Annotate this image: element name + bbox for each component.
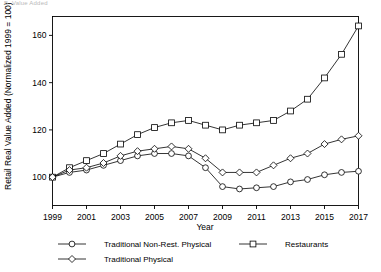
legend-marker-circle	[69, 241, 75, 247]
data-point	[134, 148, 141, 155]
y-axis-title: Retail Real Value Added (Normalized 1999…	[3, 2, 13, 190]
y-axis-ticks: 100120140160	[32, 30, 52, 182]
x-tick-label: 2013	[281, 212, 300, 222]
legend-label: Traditional Physical	[104, 255, 173, 264]
legend-label: Restaurants	[285, 240, 328, 249]
data-point	[288, 179, 294, 185]
data-point	[288, 108, 294, 114]
data-point	[84, 158, 90, 164]
data-point	[169, 151, 175, 157]
y-tick-label: 160	[32, 30, 46, 40]
data-point	[169, 120, 175, 126]
legend-item[interactable]: Restaurants	[239, 240, 328, 249]
x-tick-label: 2017	[349, 212, 368, 222]
y-tick-label: 120	[32, 125, 46, 135]
legend-label: Traditional Non-Rest. Physical	[104, 240, 212, 249]
x-tick-label: 2007	[179, 212, 198, 222]
x-tick-label: 1999	[43, 212, 62, 222]
data-point	[305, 96, 311, 102]
data-point	[356, 168, 362, 174]
data-point	[203, 165, 209, 171]
data-point	[185, 145, 192, 152]
legend-marker-diamond	[69, 256, 76, 263]
x-tick-label: 2015	[315, 212, 334, 222]
panel-title: B. Value Added	[4, 0, 48, 6]
data-point	[321, 141, 328, 148]
data-point	[254, 120, 260, 126]
data-point	[339, 51, 345, 57]
x-tick-label: 2009	[213, 212, 232, 222]
data-point	[339, 170, 345, 176]
legend-marker-square	[250, 241, 256, 247]
x-tick-label: 2005	[145, 212, 164, 222]
data-point	[186, 118, 192, 124]
data-point	[220, 184, 226, 190]
data-point	[220, 127, 226, 133]
data-point	[118, 141, 124, 147]
data-point	[304, 150, 311, 157]
data-point	[322, 172, 328, 178]
data-point	[355, 132, 362, 139]
x-axis-title: Year	[196, 222, 213, 232]
data-point	[151, 145, 158, 152]
data-point	[203, 122, 209, 128]
data-point	[270, 162, 277, 169]
data-point	[271, 118, 277, 124]
chart-legend: Traditional Non-Rest. PhysicalRestaurant…	[58, 240, 328, 264]
series-layer	[49, 23, 362, 192]
x-axis-ticks: 1999200120032005200720092011201320152017	[43, 206, 368, 222]
data-point	[186, 153, 192, 159]
x-tick-label: 2001	[77, 212, 96, 222]
data-point	[287, 155, 294, 162]
y-tick-label: 100	[32, 172, 46, 182]
value-added-line-chart: Retail Real Value Added (Normalized 1999…	[0, 0, 381, 272]
data-point	[152, 125, 158, 131]
data-point	[338, 136, 345, 143]
y-tick-label: 140	[32, 78, 46, 88]
data-point	[168, 143, 175, 150]
data-point	[305, 177, 311, 183]
data-point	[322, 75, 328, 81]
data-point	[135, 132, 141, 138]
data-point	[237, 122, 243, 128]
legend-item[interactable]: Traditional Non-Rest. Physical	[58, 240, 212, 249]
data-point	[271, 184, 277, 190]
data-point	[356, 23, 362, 29]
data-point	[237, 186, 243, 192]
figure-panel-b: B. Value Added Retail Real Value Added (…	[0, 0, 381, 272]
data-point	[253, 169, 260, 176]
data-point	[117, 152, 124, 159]
x-tick-label: 2003	[111, 212, 130, 222]
data-point	[236, 169, 243, 176]
x-tick-label: 2011	[247, 212, 266, 222]
legend-item[interactable]: Traditional Physical	[58, 255, 173, 264]
plot-frame	[53, 17, 359, 206]
data-point	[101, 151, 107, 157]
data-point	[254, 185, 260, 191]
